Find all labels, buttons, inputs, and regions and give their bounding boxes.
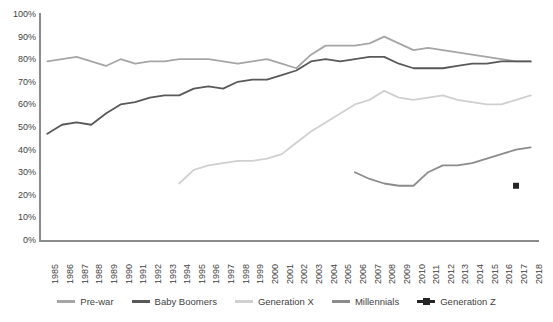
legend-swatch-icon: [235, 300, 253, 303]
series-line: [179, 91, 531, 184]
x-axis-tick-label: 2000: [271, 244, 280, 284]
series-line: [47, 57, 530, 134]
chart-container: 100%90%80%70%60%50%40%30%20%10%0% 198519…: [0, 0, 553, 322]
x-axis-tick-label: 2012: [447, 244, 456, 284]
y-axis-tick-label: 50%: [2, 123, 36, 132]
y-axis-labels: 100%90%80%70%60%50%40%30%20%10%0%: [0, 0, 36, 322]
x-axis-tick-label: 2002: [300, 244, 309, 284]
x-axis-tick-label: 1996: [212, 244, 221, 284]
legend-item[interactable]: Generation X: [235, 296, 314, 307]
y-axis-tick-label: 0%: [2, 236, 36, 245]
x-axis-line: [39, 240, 539, 242]
x-axis-tick-label: 1991: [139, 244, 148, 284]
legend-swatch-icon: [332, 300, 350, 303]
legend-label: Baby Boomers: [155, 296, 217, 307]
legend-label: Generation Z: [440, 296, 495, 307]
legend-swatch-icon: [132, 300, 150, 303]
x-axis-tick-label: 1992: [154, 244, 163, 284]
x-axis-tick-label: 2009: [403, 244, 412, 284]
x-axis-tick-label: 1998: [242, 244, 251, 284]
y-axis-tick-label: 10%: [2, 213, 36, 222]
x-axis-tick-label: 2013: [461, 244, 470, 284]
y-axis-tick-label: 30%: [2, 168, 36, 177]
legend-item[interactable]: Generation Z: [417, 296, 495, 307]
x-axis-tick-label: 1993: [169, 244, 178, 284]
x-axis-tick-label: 2005: [344, 244, 353, 284]
x-axis-tick-label: 2014: [476, 244, 485, 284]
x-axis-tick-label: 2017: [520, 244, 529, 284]
x-axis-tick-label: 1994: [183, 244, 192, 284]
x-axis-tick-label: 2018: [535, 244, 544, 284]
x-axis-tick-label: 1986: [66, 244, 75, 284]
x-axis-tick-label: 2010: [418, 244, 427, 284]
chart-legend: Pre-warBaby BoomersGeneration XMillennia…: [0, 292, 553, 310]
x-axis-tick-label: 1999: [256, 244, 265, 284]
series-marker: [513, 183, 519, 189]
legend-item[interactable]: Millennials: [332, 296, 399, 307]
y-axis-tick-label: 100%: [2, 10, 36, 19]
x-axis-tick-label: 2001: [286, 244, 295, 284]
x-axis-tick-label: 1987: [81, 244, 90, 284]
y-axis-tick-label: 80%: [2, 55, 36, 64]
y-axis-tick-label: 40%: [2, 146, 36, 155]
x-axis-tick-label: 2007: [374, 244, 383, 284]
legend-item[interactable]: Baby Boomers: [132, 296, 217, 307]
legend-item[interactable]: Pre-war: [57, 296, 113, 307]
y-axis-tick-label: 90%: [2, 33, 36, 42]
x-axis-tick-label: 2003: [315, 244, 324, 284]
x-axis-tick-label: 1997: [227, 244, 236, 284]
legend-label: Pre-war: [80, 296, 113, 307]
series-line: [355, 147, 531, 185]
y-axis-tick-label: 70%: [2, 78, 36, 87]
legend-swatch-icon: [417, 300, 435, 303]
x-axis-tick-label: 1995: [198, 244, 207, 284]
x-axis-tick-label: 2004: [330, 244, 339, 284]
x-axis-tick-label: 2015: [491, 244, 500, 284]
legend-label: Millennials: [355, 296, 399, 307]
x-axis-labels: 1985198619871988198919901991199219931994…: [40, 244, 540, 286]
x-axis-tick-label: 1985: [51, 244, 60, 284]
x-axis-tick-label: 1990: [125, 244, 134, 284]
x-axis-tick-label: 1989: [110, 244, 119, 284]
y-axis-tick-label: 60%: [2, 100, 36, 109]
series-line: [47, 37, 530, 69]
y-axis-tick-label: 20%: [2, 191, 36, 200]
x-axis-tick-label: 2006: [359, 244, 368, 284]
x-axis-tick-label: 2011: [432, 244, 441, 284]
x-axis-tick-label: 1988: [95, 244, 104, 284]
legend-label: Generation X: [258, 296, 314, 307]
plot-area: [40, 14, 538, 240]
x-axis-tick-label: 2008: [388, 244, 397, 284]
legend-swatch-icon: [57, 300, 75, 303]
line-series-svg: [40, 14, 538, 240]
x-axis-tick-label: 2016: [505, 244, 514, 284]
